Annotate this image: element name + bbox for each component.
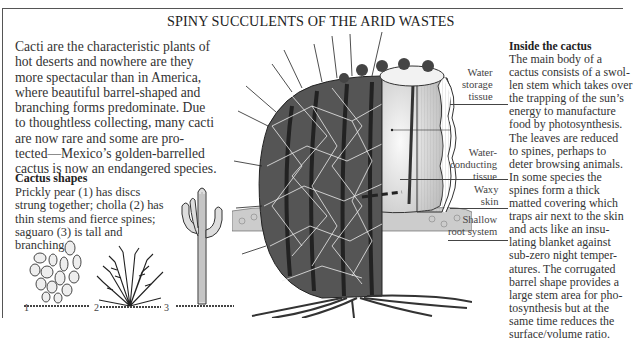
inside-line: same time reduces the xyxy=(509,315,633,328)
inside-line: barrel shape provides a xyxy=(509,276,633,289)
figure-number-1: 1 xyxy=(24,302,29,313)
shapes-line: saguaro (3) is tall and xyxy=(15,226,164,239)
label-line: tissue xyxy=(462,91,493,103)
label-line: Water xyxy=(462,67,493,79)
label-line: storage xyxy=(462,79,493,91)
inside-cactus-paragraph: The main body of a cactus consists of a … xyxy=(509,53,633,341)
label-line: skin xyxy=(474,196,498,208)
label-line: Shallow xyxy=(448,214,497,226)
intro-line: are now rare and some are pro- xyxy=(15,131,230,146)
inside-line: In some species the xyxy=(509,171,633,184)
shapes-line: thin stems and fierce spines; xyxy=(15,213,164,226)
figure-number-3: 3 xyxy=(164,302,169,313)
inside-line: to spines, perhaps to xyxy=(509,145,633,158)
leader-line xyxy=(450,104,508,105)
inside-line: atures. The corrugated xyxy=(509,263,633,276)
saguaro-illustration xyxy=(168,184,236,310)
intro-line: tected—Mexico’s golden-barrelled xyxy=(15,146,230,161)
cactus-shapes-heading: Cactus shapes xyxy=(15,171,87,186)
leader-line xyxy=(448,240,508,241)
inside-line: large stem area for pho- xyxy=(509,289,633,302)
label-line: tissue xyxy=(450,171,497,183)
frame-top-border xyxy=(2,8,623,9)
shapes-line: Prickly pear (1) has discs xyxy=(15,186,164,199)
figure-number-2: 2 xyxy=(94,302,99,313)
label-line: root system xyxy=(448,226,497,238)
frame-left-border xyxy=(2,8,3,318)
prickly-pear-illustration xyxy=(22,240,92,310)
label-shallow-root-system: Shallow root system xyxy=(448,214,497,238)
cholla-illustration xyxy=(95,242,165,310)
inside-line: surface/volume ratio. xyxy=(509,328,633,341)
label-waxy-skin: Waxy skin xyxy=(474,184,498,208)
label-line: conducting xyxy=(450,159,497,171)
intro-line: hot deserts and nowhere are they xyxy=(15,54,230,69)
intro-line: to thoughtless collecting, many cacti xyxy=(15,115,230,130)
intro-line: more spectacular than in America, xyxy=(15,70,230,85)
intro-line: where beautiful barrel-shaped and xyxy=(15,85,230,100)
inside-line: deter browsing animals. xyxy=(509,158,633,171)
leader-line xyxy=(450,208,508,209)
label-water-storage-tissue: Water storage tissue xyxy=(462,67,493,102)
shapes-line: strung together; cholla (2) has xyxy=(15,199,164,212)
label-line: Waxy xyxy=(474,184,498,196)
barrel-cactus-cross-section xyxy=(232,26,472,318)
leader-line xyxy=(400,179,508,180)
intro-line: Cacti are the characteristic plants of xyxy=(15,39,230,54)
label-water-conducting-tissue: Water- conducting tissue xyxy=(450,147,497,182)
intro-paragraph: Cacti are the characteristic plants of h… xyxy=(15,39,230,177)
intro-line: branching forms predominate. Due xyxy=(15,100,230,115)
inside-line: sub-zero night temper- xyxy=(509,249,633,262)
label-line: Water- xyxy=(450,147,497,159)
inside-line: The leaves are reduced xyxy=(509,132,633,145)
inside-line: tosynthesis but at the xyxy=(509,302,633,315)
inside-line: food by photosynthesis. xyxy=(509,118,633,131)
